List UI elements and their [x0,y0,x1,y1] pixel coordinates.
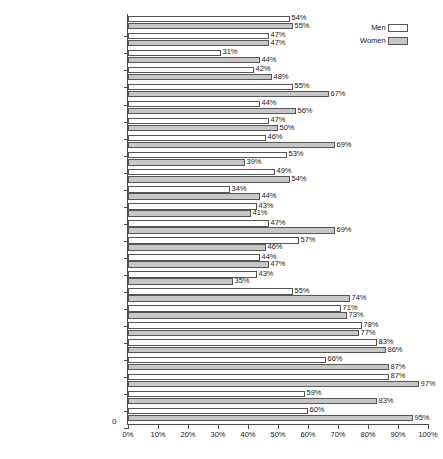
bar-value-women: 55% [295,22,310,30]
bar-men[interactable] [128,288,293,295]
bar-women[interactable] [128,23,293,30]
x-axis-tick [218,425,219,429]
bar-value-men: 31% [223,48,238,56]
bar-value-men: 55% [295,82,310,90]
x-axis-tick [188,425,189,429]
legend-label-women: Women [360,36,386,45]
bar-men[interactable] [128,391,305,398]
bar-men[interactable] [128,305,341,312]
x-axis-tick [338,425,339,429]
legend-swatch-women [388,37,408,45]
bar-men[interactable] [128,203,257,210]
bar-men[interactable] [128,357,326,364]
x-axis-tick [398,425,399,429]
bar-men[interactable] [128,169,275,176]
bar-women[interactable] [128,364,389,371]
bar-women[interactable] [128,398,377,405]
bar-men[interactable] [128,16,290,23]
bar-women[interactable] [128,295,350,302]
bar-value-men: 44% [262,99,277,107]
bar-women[interactable] [128,312,347,319]
bar-women[interactable] [128,40,269,47]
bar-value-men: 47% [271,219,286,227]
bar-value-men: 43% [259,270,274,278]
bar-women[interactable] [128,415,413,422]
bar-value-women: 39% [247,158,262,166]
x-axis-tick [248,425,249,429]
bar-value-men: 87% [391,372,406,380]
bar-women[interactable] [128,244,266,251]
bar-value-women: 47% [271,39,286,47]
bar-men[interactable] [128,220,269,227]
bar-women[interactable] [128,347,386,354]
bar-value-men: 34% [232,185,247,193]
bar-men[interactable] [128,33,269,40]
x-axis-tick [158,425,159,429]
bar-women[interactable] [128,330,359,337]
bar-men[interactable] [128,118,269,125]
bar-women[interactable] [128,193,260,200]
bar-women[interactable] [128,91,329,98]
bar-men[interactable] [128,101,260,108]
bar-men[interactable] [128,67,254,74]
bar-value-men: 46% [268,133,283,141]
bar-value-men: 57% [301,236,316,244]
legend-label-men: Men [371,23,386,32]
bar-value-women: 48% [274,73,289,81]
legend-item-women: Women [360,35,408,46]
x-axis-tick [128,425,129,429]
bar-women[interactable] [128,125,278,132]
bar-value-women: 46% [268,243,283,251]
bar-women[interactable] [128,108,296,115]
bar-value-women: 56% [298,107,313,115]
bar-women[interactable] [128,261,269,268]
bar-men[interactable] [128,254,260,261]
bar-women[interactable] [128,210,251,217]
x-axis-tick-label: 100% [408,430,443,439]
bar-value-men: 49% [277,167,292,175]
legend-swatch-men [388,24,408,32]
bar-value-women: 87% [391,363,406,371]
bar-value-women: 54% [292,175,307,183]
bar-men[interactable] [128,84,293,91]
bar-women[interactable] [128,176,290,183]
bar-value-women: 41% [253,209,268,217]
bar-value-women: 47% [271,260,286,268]
bar-value-women: 77% [361,329,376,337]
bar-value-women: 69% [337,226,352,234]
bar-value-women: 67% [331,90,346,98]
bar-value-women: 35% [235,277,250,285]
bar-men[interactable] [128,186,230,193]
bar-value-women: 69% [337,141,352,149]
x-axis-tick [278,425,279,429]
bar-value-women: 97% [421,380,436,388]
bar-value-men: 59% [307,389,322,397]
bar-value-men: 53% [289,150,304,158]
bar-value-women: 73% [349,311,364,319]
axis-origin-label: 0 [112,417,116,426]
bar-women[interactable] [128,159,245,166]
bar-value-women: 95% [415,414,430,422]
bar-value-women: 86% [388,346,403,354]
bar-value-women: 74% [352,294,367,302]
x-axis-tick [428,425,429,429]
bar-women[interactable] [128,381,419,388]
bar-value-women: 44% [262,192,277,200]
x-axis-tick [308,425,309,429]
bar-women[interactable] [128,142,335,149]
bar-women[interactable] [128,57,260,64]
bar-men[interactable] [128,322,362,329]
bar-men[interactable] [128,135,266,142]
bar-men[interactable] [128,50,221,57]
bar-men[interactable] [128,339,377,346]
bar-men[interactable] [128,408,308,415]
chart-legend: Men Women [360,22,408,48]
bar-value-women: 83% [379,397,394,405]
bar-women[interactable] [128,74,272,81]
bar-women[interactable] [128,227,335,234]
bar-women[interactable] [128,278,233,285]
bar-men[interactable] [128,152,287,159]
bar-men[interactable] [128,374,389,381]
x-axis-tick [368,425,369,429]
